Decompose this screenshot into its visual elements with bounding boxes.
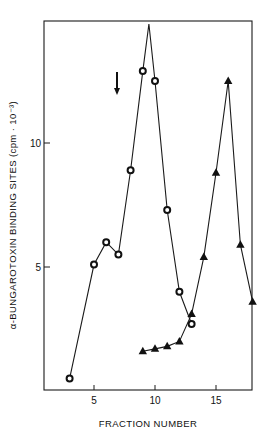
triangle-marker: [236, 240, 244, 248]
series-triangles: [139, 77, 257, 355]
triangle-marker: [187, 310, 195, 318]
series-layer: [67, 24, 257, 382]
y-axis-title: α-BUNGAROTOXIN BINDING SITES (cpm · 10⁻³…: [7, 101, 18, 329]
plot-frame: [44, 21, 252, 390]
circle-marker: [164, 207, 170, 213]
circle-marker: [176, 289, 182, 295]
circle-marker: [91, 262, 97, 268]
y-tick-label: 5: [35, 262, 41, 273]
series-circles: [67, 24, 195, 382]
triangle-marker: [175, 337, 183, 345]
arrow-head: [114, 88, 120, 95]
x-axis-title: FRACTION NUMBER: [99, 418, 197, 429]
chart: 51015510 FRACTION NUMBER α-BUNGAROTOXIN …: [0, 0, 270, 434]
triangle-marker: [224, 77, 232, 85]
x-tick-label: 5: [91, 395, 97, 406]
triangle-marker: [212, 168, 220, 176]
circle-marker: [128, 167, 134, 173]
x-tick-label: 15: [210, 395, 222, 406]
circle-marker: [189, 321, 195, 327]
axes: 51015510: [30, 21, 252, 406]
y-tick-label: 10: [30, 138, 42, 149]
triangle-marker: [200, 253, 208, 260]
triangle-marker: [248, 297, 256, 305]
annotation-layer: [114, 72, 120, 95]
circle-marker: [140, 68, 146, 74]
x-tick-label: 10: [149, 395, 161, 406]
series-line: [70, 24, 192, 379]
circle-marker: [67, 376, 73, 382]
circle-marker: [115, 252, 121, 258]
circle-marker: [103, 239, 109, 245]
circle-marker: [152, 78, 158, 84]
